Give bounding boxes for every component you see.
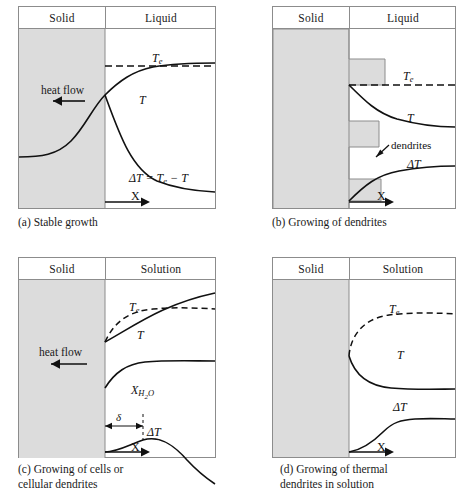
panel-a-header-solid: Solid xyxy=(19,7,105,28)
panel-a-frame: Solid Liquid TeTe T xyxy=(18,6,216,209)
panel-d-plot xyxy=(273,280,455,457)
delta-dim-arrow-right xyxy=(136,423,143,429)
panel-a-label-heat-flow: heat flow xyxy=(41,84,84,96)
panel-d-label-t: T xyxy=(397,348,404,363)
figure-grid: Solid Liquid TeTe T xyxy=(0,0,475,499)
x-axis-arrow-head xyxy=(141,448,150,457)
panel-a-header: Solid Liquid xyxy=(19,7,215,29)
panel-d-caption: (d) Growing of thermal dendrites in solu… xyxy=(280,462,388,492)
panel-c-label-heat-flow: heat flow xyxy=(39,346,82,358)
panel-a-label-delta-t-equation: ΔT = Te − T xyxy=(129,171,188,186)
panel-c-header: Solid Solution xyxy=(19,258,215,280)
panel-a: Solid Liquid TeTe T xyxy=(18,6,216,209)
x-axis-arrow-head xyxy=(385,448,394,457)
undercooling-curve xyxy=(349,419,455,452)
solid-region-fill xyxy=(273,280,349,457)
panel-b-header-solid: Solid xyxy=(273,7,349,28)
panel-b-label-t: T xyxy=(407,111,414,126)
panel-d-header: Solid Solution xyxy=(273,258,455,280)
solid-region-fill xyxy=(19,29,105,208)
panel-c: Solid Solution xyxy=(18,257,216,458)
panel-c-plot xyxy=(19,280,215,457)
panel-c-label-delta: δ xyxy=(116,411,121,423)
panel-d: Solid Solution Te T ΔT X (d xyxy=(272,257,456,458)
panel-d-label-delta-t: ΔT xyxy=(393,400,407,415)
panel-c-label-t: T xyxy=(137,328,144,343)
panel-c-frame: Solid Solution xyxy=(18,257,216,458)
panel-b-plot xyxy=(273,29,455,208)
panel-c-label-xh2o: XH2O xyxy=(131,383,154,401)
panel-b-label-x-axis: X xyxy=(377,189,386,204)
solid-region-fill xyxy=(19,280,105,458)
panel-b-header-liquid: Liquid xyxy=(349,7,456,28)
panel-c-label-delta-t: ΔT xyxy=(147,425,161,440)
panel-b-label-dendrites: dendrites xyxy=(391,139,431,151)
delta-dim-arrow-left xyxy=(105,423,112,429)
panel-c-label-te: Te xyxy=(129,300,139,315)
panel-a-caption: (a) Stable growth xyxy=(18,215,98,230)
panel-b-label-delta-t: ΔT xyxy=(407,157,421,172)
panel-a-label-te: TeTe xyxy=(152,51,162,66)
panel-d-frame: Solid Solution Te T ΔT X xyxy=(272,257,456,458)
panel-d-label-x-axis: X xyxy=(377,440,386,455)
panel-b-header: Solid Liquid xyxy=(273,7,455,29)
water-concentration-curve xyxy=(105,361,215,388)
panel-c-label-x-axis: X xyxy=(131,440,140,455)
panel-b: Solid Liquid Te T de xyxy=(272,6,456,209)
x-axis-arrow-head xyxy=(141,198,150,207)
panel-a-header-liquid: Liquid xyxy=(105,7,216,28)
panel-a-label-x-axis: X xyxy=(131,189,140,204)
panel-c-caption: (c) Growing of cells or cellular dendrit… xyxy=(18,462,123,492)
panel-d-header-solution: Solution xyxy=(349,258,456,279)
te-dashed-curve xyxy=(105,308,215,342)
solid-region-with-dendrites xyxy=(273,29,385,208)
temperature-curve xyxy=(105,293,215,342)
panel-d-label-te: Te xyxy=(389,302,399,317)
panel-b-frame: Solid Liquid Te T de xyxy=(272,6,456,209)
panel-b-label-te: Te xyxy=(403,69,413,84)
panel-b-caption: (b) Growing of dendrites xyxy=(272,215,387,230)
panel-d-header-solid: Solid xyxy=(273,258,349,279)
x-axis-arrow-head xyxy=(385,198,394,207)
panel-c-header-solution: Solution xyxy=(105,258,216,279)
panel-a-label-t: T xyxy=(139,93,146,108)
panel-c-header-solid: Solid xyxy=(19,258,105,279)
